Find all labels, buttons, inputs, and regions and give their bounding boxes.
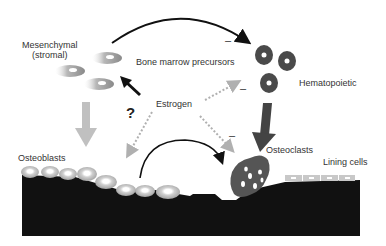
hematopoietic-cells xyxy=(255,45,296,93)
bone-matrix xyxy=(22,175,360,236)
estrogen-label: Estrogen xyxy=(156,99,192,109)
estrogen-dotted-arrows xyxy=(128,82,238,155)
bone-marrow-precursors-label: Bone marrow precursors xyxy=(136,57,235,67)
osteoblasts-label: Osteoblasts xyxy=(18,153,66,163)
inhibition-sign-3: – xyxy=(229,130,235,140)
inhibition-sign-2: – xyxy=(240,83,246,93)
question-mark: ? xyxy=(126,104,135,121)
lining-cells-label: Lining cells xyxy=(323,157,368,167)
mesenchymal-label-line1: Mesenchymal xyxy=(22,40,78,50)
diagram-graphics xyxy=(0,0,386,246)
lining-cells xyxy=(285,175,355,181)
mesenchymal-label: Mesenchymal (stromal) xyxy=(22,40,78,60)
inhibition-sign-1: – xyxy=(225,35,231,45)
hematopoietic-label: Hematopoietic xyxy=(299,78,357,88)
mesenchymal-label-line2: (stromal) xyxy=(22,50,78,60)
gray-arrow-osteoblast xyxy=(75,102,97,147)
curved-arrow-bottom xyxy=(140,140,222,178)
arrow-to-mesenchymal xyxy=(120,76,140,95)
osteoclasts-label: Osteoclasts xyxy=(266,145,313,155)
bone-remodeling-diagram: Mesenchymal (stromal) Bone marrow precur… xyxy=(0,0,386,246)
